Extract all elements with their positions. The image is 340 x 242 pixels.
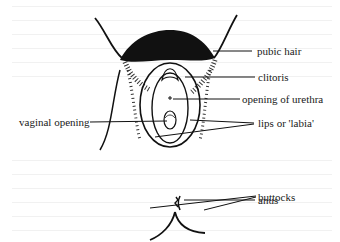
- leader-buttocks-1: [150, 196, 256, 208]
- urethra-mark: [168, 96, 172, 100]
- left-buttock-curve: [150, 212, 175, 240]
- label-vaginal-opening: vaginal opening: [19, 116, 90, 128]
- pubic-hair-mass: [120, 30, 215, 140]
- leader-vaginal-opening: [90, 121, 167, 122]
- label-urethra: opening of urethra: [242, 93, 323, 105]
- label-buttocks: buttocks: [258, 191, 295, 203]
- label-clitoris: clitoris: [258, 71, 289, 83]
- leader-labia-1: [190, 120, 254, 123]
- leader-labia-2: [155, 124, 254, 137]
- label-labia: lips or 'labia': [258, 117, 314, 129]
- vaginal-opening-shape: [164, 111, 176, 129]
- right-thigh-line: [214, 15, 237, 58]
- label-pubic-hair: pubic hair: [257, 45, 301, 57]
- left-outer-contour: [100, 70, 120, 150]
- right-buttock-curve: [175, 212, 205, 233]
- anus-shape: [179, 196, 181, 210]
- labia-majora: [140, 63, 200, 147]
- labia-minora: [152, 73, 188, 143]
- left-thigh-line: [95, 18, 122, 58]
